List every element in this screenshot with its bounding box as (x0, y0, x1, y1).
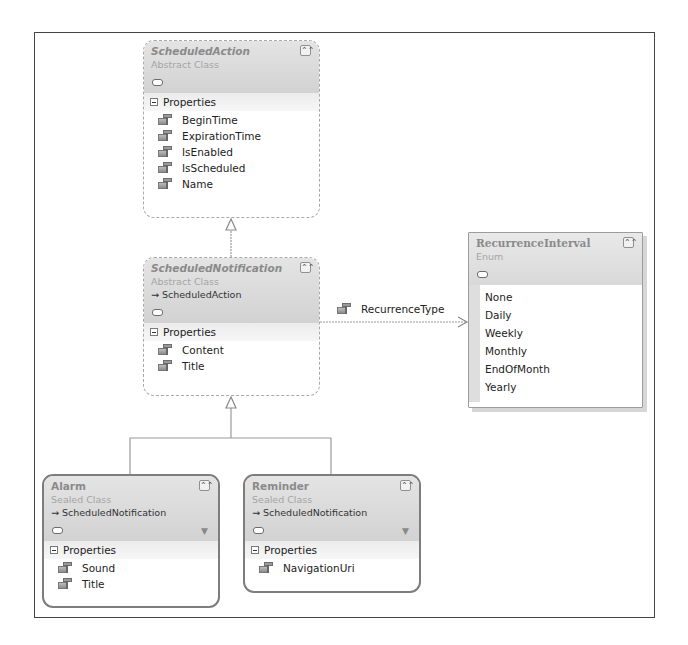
property-icon (158, 360, 174, 372)
property-name: Name (182, 178, 213, 190)
section-properties[interactable]: Properties (44, 541, 218, 559)
property-icon (158, 344, 174, 356)
class-base-type: → ScheduledAction (151, 288, 312, 301)
collapse-chevron-icon[interactable]: ⌃⌃ (199, 480, 210, 491)
collapse-minus-icon[interactable] (150, 328, 158, 336)
collapse-minus-icon[interactable] (50, 546, 58, 554)
class-pill-icon (253, 527, 264, 534)
property-item[interactable]: ExpirationTime (144, 128, 319, 144)
collapse-chevron-icon[interactable]: ⌃⌃ (300, 262, 311, 273)
class-header: Reminder Sealed Class → ScheduledNotific… (245, 476, 419, 541)
class-pill-icon (152, 79, 163, 86)
section-label: Properties (163, 326, 216, 338)
class-alarm[interactable]: Alarm Sealed Class → ScheduledNotificati… (42, 474, 220, 608)
class-scheduled-notification[interactable]: ScheduledNotification Abstract Class → S… (143, 257, 320, 396)
collapse-chevron-icon[interactable]: ⌃⌃ (300, 45, 311, 56)
class-stereotype: Abstract Class (151, 275, 312, 288)
enum-value[interactable]: None (485, 288, 642, 306)
property-name: BeginTime (182, 114, 238, 126)
property-item[interactable]: BeginTime (144, 112, 319, 128)
collapse-chevron-icon[interactable]: ⌃⌃ (623, 237, 634, 248)
enum-value[interactable]: Weekly (485, 324, 642, 342)
property-name: ExpirationTime (182, 130, 261, 142)
filter-icon[interactable]: ▼ (402, 526, 409, 536)
property-item[interactable]: IsEnabled (144, 144, 319, 160)
section-label: Properties (63, 544, 116, 556)
enum-header: RecurrenceInterval Enum ⌃⌃ (469, 233, 642, 285)
property-name: Sound (82, 562, 115, 574)
collapse-minus-icon[interactable] (251, 546, 259, 554)
class-stereotype: Sealed Class (51, 493, 211, 506)
class-header: Alarm Sealed Class → ScheduledNotificati… (44, 476, 218, 541)
section-properties[interactable]: Properties (144, 323, 319, 341)
class-pill-icon (152, 309, 163, 316)
property-item[interactable]: Sound (44, 560, 218, 576)
property-name: Title (182, 360, 205, 372)
enum-value[interactable]: Daily (485, 306, 642, 324)
class-name: ScheduledAction (151, 45, 312, 58)
association-recurrence-type[interactable]: RecurrenceType (337, 303, 444, 315)
property-item[interactable]: Title (144, 358, 319, 374)
class-stereotype: Sealed Class (252, 493, 412, 506)
section-label: Properties (163, 96, 216, 108)
property-icon (158, 146, 174, 158)
class-base-type: → ScheduledNotification (252, 506, 412, 519)
property-name: NavigationUri (283, 562, 355, 574)
property-icon (158, 130, 174, 142)
property-icon (158, 114, 174, 126)
property-item[interactable]: Content (144, 342, 319, 358)
property-icon (158, 162, 174, 174)
section-properties[interactable]: Properties (245, 541, 419, 559)
collapse-chevron-icon[interactable]: ⌃⌃ (400, 480, 411, 491)
class-header: ScheduledNotification Abstract Class → S… (144, 258, 319, 323)
class-name: Reminder (252, 480, 412, 493)
property-name: Content (182, 344, 224, 356)
enum-name: RecurrenceInterval (476, 237, 635, 250)
class-scheduled-action[interactable]: ScheduledAction Abstract Class ⌃⌃ Proper… (143, 40, 320, 218)
section-properties[interactable]: Properties (144, 93, 319, 111)
property-item[interactable]: NavigationUri (245, 560, 419, 576)
class-base-type: → ScheduledNotification (51, 506, 211, 519)
filter-icon[interactable]: ▼ (201, 526, 208, 536)
class-stereotype: Abstract Class (151, 58, 312, 71)
collapse-minus-icon[interactable] (150, 98, 158, 106)
class-reminder[interactable]: Reminder Sealed Class → ScheduledNotific… (243, 474, 421, 593)
class-name: ScheduledNotification (151, 262, 312, 275)
enum-stereotype: Enum (476, 250, 635, 263)
property-item[interactable]: Name (144, 176, 319, 192)
class-name: Alarm (51, 480, 211, 493)
enum-value[interactable]: EndOfMonth (485, 360, 642, 378)
property-icon (58, 578, 74, 590)
property-icon (259, 562, 275, 574)
property-icon (58, 562, 74, 574)
property-name: IsEnabled (182, 146, 233, 158)
enum-recurrence-interval[interactable]: RecurrenceInterval Enum ⌃⌃ None Daily We… (468, 232, 643, 408)
enum-value[interactable]: Monthly (485, 342, 642, 360)
property-icon (337, 303, 353, 315)
property-item[interactable]: IsScheduled (144, 160, 319, 176)
class-pill-icon (52, 527, 63, 534)
enum-value[interactable]: Yearly (485, 378, 642, 396)
enum-pill-icon (477, 271, 488, 278)
property-icon (158, 178, 174, 190)
class-header: ScheduledAction Abstract Class ⌃⌃ (144, 41, 319, 93)
property-item[interactable]: Title (44, 576, 218, 592)
association-label: RecurrenceType (361, 303, 444, 315)
enum-side-strip (469, 285, 480, 402)
property-name: Title (82, 578, 105, 590)
section-label: Properties (264, 544, 317, 556)
property-name: IsScheduled (182, 162, 245, 174)
